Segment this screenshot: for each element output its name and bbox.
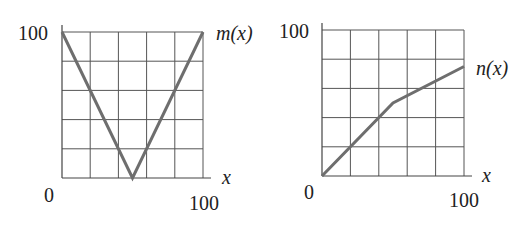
x-axis-label-n: x — [481, 164, 491, 186]
grid-m — [62, 32, 203, 178]
figure: 100 0 100 x m(x) 100 0 100 x n(x) — [0, 0, 519, 230]
x-tick-label-0-m: 0 — [44, 184, 54, 206]
series-line-m — [62, 32, 203, 178]
x-tick-label-0-n: 0 — [304, 181, 314, 203]
series-line-n — [322, 67, 464, 177]
series-label-m: m(x) — [216, 22, 253, 45]
y-tick-label-100-m: 100 — [18, 22, 48, 44]
chart-m: 100 0 100 x m(x) — [18, 22, 253, 214]
x-tick-label-100-n: 100 — [449, 189, 479, 211]
y-tick-label-100-n: 100 — [279, 20, 309, 42]
chart-n: 100 0 100 x n(x) — [279, 20, 509, 211]
series-label-n: n(x) — [476, 57, 509, 80]
x-axis-label-m: x — [221, 166, 231, 188]
x-tick-label-100-m: 100 — [189, 192, 219, 214]
